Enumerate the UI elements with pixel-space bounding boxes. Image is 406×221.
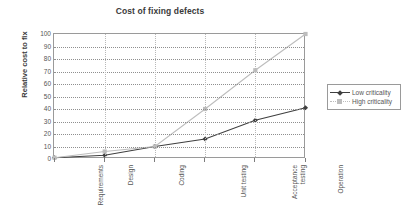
category-gridline — [205, 34, 206, 157]
x-axis-label: Acceptance testing — [291, 165, 306, 199]
y-axis-tick-label: 20 — [5, 130, 51, 137]
gridline — [54, 122, 304, 123]
legend-label-high-criticality: High criticality — [352, 98, 392, 105]
category-gridline — [255, 34, 256, 157]
x-axis-label: Unit testing — [240, 165, 248, 198]
y-axis-tick-label: 60 — [5, 80, 51, 87]
gridline — [54, 47, 304, 48]
y-axis-tick-label: 40 — [5, 105, 51, 112]
y-axis-tick-labels: 0102030405060708090100 — [0, 33, 51, 158]
category-gridline — [155, 34, 156, 157]
legend-marker-high-criticality — [330, 97, 350, 106]
legend-label-low-criticality: Low criticality — [352, 89, 391, 96]
chart-legend: Low criticality High criticality — [327, 84, 401, 110]
x-axis-category-labels: RequirementsDesignCodingUnit testingAcce… — [53, 163, 305, 221]
x-axis-label: Design — [127, 165, 135, 185]
x-axis-label: Requirements — [97, 165, 105, 205]
gridline — [54, 97, 304, 98]
gridline — [54, 109, 304, 110]
series-line — [55, 108, 306, 158]
x-axis-tick-mark — [154, 158, 155, 162]
plot-area — [53, 33, 305, 158]
x-axis-tick-mark — [54, 158, 55, 162]
data-point-marker — [303, 32, 307, 36]
legend-item-low-criticality[interactable]: Low criticality — [330, 88, 397, 97]
chart-container: Cost of fixing defects Relative cost to … — [0, 0, 406, 221]
y-axis-tick-label: 10 — [5, 142, 51, 149]
y-axis-tick-label: 90 — [5, 42, 51, 49]
y-axis-tick-label: 30 — [5, 117, 51, 124]
gridline — [54, 59, 304, 60]
x-axis-tick-mark — [104, 158, 105, 162]
y-axis-tick-label: 100 — [5, 30, 51, 37]
legend-marker-low-criticality — [330, 88, 350, 97]
x-axis-tick-marks — [53, 158, 305, 162]
x-axis-tick-mark — [305, 158, 306, 162]
gridline — [54, 84, 304, 85]
y-axis-tick-label: 50 — [5, 92, 51, 99]
legend-item-high-criticality[interactable]: High criticality — [330, 97, 397, 106]
y-axis-tick-label: 0 — [5, 155, 51, 162]
x-axis-label: Operation — [336, 165, 344, 194]
x-axis-label: Coding — [178, 165, 186, 186]
gridline — [54, 147, 304, 148]
category-gridline — [105, 34, 106, 157]
chart-title: Cost of fixing defects — [0, 6, 320, 16]
y-axis-tick-label: 70 — [5, 67, 51, 74]
gridline — [54, 72, 304, 73]
gridline — [54, 134, 304, 135]
y-axis-tick-label: 80 — [5, 55, 51, 62]
x-axis-tick-mark — [204, 158, 205, 162]
x-axis-tick-mark — [254, 158, 255, 162]
